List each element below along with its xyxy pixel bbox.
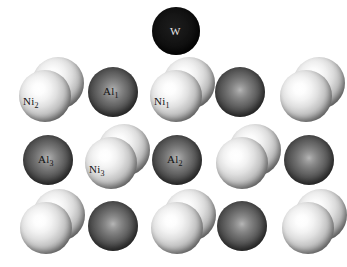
atom-label-al1: Al1 [103, 86, 119, 97]
atom-label-element-ni2: Ni [23, 95, 34, 107]
atom-sphere-r4c4 [217, 201, 267, 251]
atom-sphere-r4c1 [20, 202, 72, 254]
atom-label-ni3: Ni3 [89, 164, 105, 175]
atom-label-element-w-adatom: W [170, 25, 181, 37]
atom-label-al3: Al3 [38, 154, 54, 165]
atom-sphere-r4c3 [151, 202, 203, 254]
atom-sphere-r4c2 [88, 201, 138, 251]
atom-label-index-al1: 1 [114, 91, 118, 100]
atom-sphere-r3c4 [216, 137, 268, 189]
atom-label-index-ni1: 1 [165, 101, 169, 110]
atom-sphere-r2c5 [280, 70, 332, 122]
atom-label-index-ni2: 2 [34, 101, 38, 110]
atom-label-w-adatom: W [170, 26, 181, 37]
atom-sphere-r4c5 [282, 202, 334, 254]
atom-label-element-ni3: Ni [89, 163, 100, 175]
atom-sphere-r3c5 [284, 135, 334, 185]
atom-label-element-al2: Al [167, 153, 178, 165]
atomic-cluster-figure: WNi2Al1Ni1Al3Ni3Al2 [0, 0, 347, 267]
atom-label-ni2: Ni2 [23, 96, 39, 107]
atom-label-al2: Al2 [167, 154, 183, 165]
atom-label-index-al2: 2 [178, 159, 182, 168]
atom-label-ni1: Ni1 [154, 96, 170, 107]
atom-label-index-al3: 3 [49, 159, 53, 168]
atom-label-element-ni1: Ni [154, 95, 165, 107]
atom-label-element-al1: Al [103, 85, 114, 97]
atom-sphere-r2c4 [215, 67, 265, 117]
atom-label-index-ni3: 3 [100, 169, 104, 178]
atom-label-element-al3: Al [38, 153, 49, 165]
